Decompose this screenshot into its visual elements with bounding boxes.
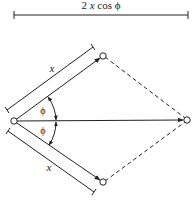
upper-angle-label: ϕ [40,105,45,116]
lower-angle-arc [49,122,56,145]
upper-tip-node [100,53,106,59]
upper-length-bar [5,44,95,113]
resultant-vector [14,120,183,121]
upper-vector [14,58,100,121]
vector-diagram: 2 x cos ϕ x x ϕ ϕ [0,0,196,208]
lower-angle-label: ϕ [40,125,45,136]
upper-dashed-edge [105,57,185,118]
origin-node [11,118,17,124]
dimension-line [14,11,188,19]
resultant-tip-node [184,117,190,123]
lower-length-label: x [46,161,52,173]
upper-angle-arc [48,97,56,120]
upper-length-label: x [49,62,55,74]
lower-vector [14,121,100,180]
lower-dashed-edge [105,122,185,181]
lower-tip-node [100,179,106,185]
dimension-label: 2 x cos ϕ [81,0,120,11]
